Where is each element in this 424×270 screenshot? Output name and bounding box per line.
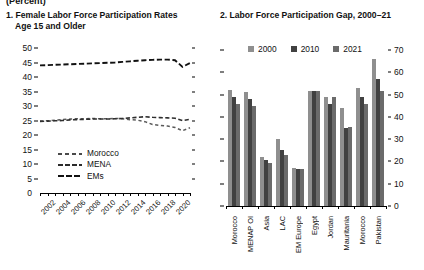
bar-chart-tick-mark bbox=[388, 183, 392, 184]
line-chart-tick-mark bbox=[34, 178, 38, 179]
panel-1-title: 1. Female Labor Force Participation Rate… bbox=[6, 10, 206, 32]
bar-chart-tick-mark-left bbox=[220, 94, 224, 95]
legend-item-morocco: Morocco bbox=[58, 148, 119, 159]
bar-2021 bbox=[348, 127, 352, 206]
legend-item-mena: MENA bbox=[58, 159, 119, 170]
line-chart-tick-mark bbox=[34, 77, 38, 78]
bar-chart-x-tick-mark bbox=[258, 206, 259, 209]
bar-2021 bbox=[300, 169, 304, 206]
bar-chart-tick-mark-left bbox=[220, 50, 224, 51]
line-chart-tick-mark bbox=[192, 149, 196, 150]
line-chart-tick-mark bbox=[34, 120, 38, 121]
line-chart-x-tick-label: 2010 bbox=[99, 198, 117, 216]
bar-chart-x-tick-mark bbox=[274, 206, 275, 209]
bar-group bbox=[370, 50, 386, 206]
bar-chart-x-tick-label: Pakistan bbox=[374, 216, 383, 244]
line-chart-x-tick-mark bbox=[48, 193, 49, 196]
bar-chart-x-tick-label: Morocco bbox=[358, 216, 367, 244]
bar-chart-x-tick-mark bbox=[370, 206, 371, 209]
line-chart-tick-mark bbox=[34, 106, 38, 107]
bar-chart-x-tick-mark bbox=[242, 206, 243, 209]
line-chart-legend: Morocco MENA EMs bbox=[58, 148, 119, 182]
bar-chart-tick-mark-left bbox=[220, 139, 224, 140]
bar-group bbox=[226, 50, 242, 206]
bar-group bbox=[258, 50, 274, 206]
line-chart-tick-mark bbox=[192, 120, 196, 121]
bar-chart-x-tick-label: Egypt bbox=[310, 216, 319, 235]
line-chart-tick-mark bbox=[34, 149, 38, 150]
bar-chart-x-tick-label: Asia bbox=[262, 216, 271, 230]
line-chart-x-tick-label: 2020 bbox=[174, 198, 192, 216]
bar-chart-tick-mark-left bbox=[220, 206, 224, 207]
bar-chart-tick-mark bbox=[388, 139, 392, 140]
bar-chart-x-tick-label: MENAP OI bbox=[246, 216, 255, 252]
bar-chart-x-tick-mark bbox=[290, 206, 291, 209]
panel-female-lfp: 1. Female Labor Force Participation Rate… bbox=[0, 0, 212, 270]
line-chart-tick-mark bbox=[192, 178, 196, 179]
bar-group bbox=[274, 50, 290, 206]
bar-group bbox=[338, 50, 354, 206]
bar-group bbox=[290, 50, 306, 206]
bar-chart-x-tick-mark bbox=[386, 206, 387, 209]
bar-2021 bbox=[236, 104, 240, 207]
bar-2021 bbox=[284, 155, 288, 206]
legend-label-ems: EMs bbox=[87, 171, 104, 182]
line-chart-tick-mark bbox=[192, 48, 196, 49]
panel-lfp-gap: 2. Labor Force Participation Gap, 2000–2… bbox=[212, 0, 424, 270]
panel-1-title-line2: Age 15 and Older bbox=[6, 21, 206, 32]
line-chart-tick-mark bbox=[34, 48, 38, 49]
line-chart-x-tick-mark bbox=[115, 193, 116, 196]
line-chart-x-tick-mark bbox=[100, 193, 101, 196]
line-chart-tick-mark bbox=[34, 62, 38, 63]
bar-group bbox=[322, 50, 338, 206]
line-chart-tick-mark bbox=[192, 106, 196, 107]
line-chart-tick-mark bbox=[192, 91, 196, 92]
bar-chart-x-tick-mark bbox=[306, 206, 307, 209]
bar-chart-x-tick-label: Mauritania bbox=[342, 216, 351, 251]
bar-chart-tick-mark bbox=[388, 161, 392, 162]
bar-chart-plot-area: 010203040506070 MoroccoMENAP OIAsiaLACEM… bbox=[226, 50, 386, 206]
line-series-mena bbox=[40, 117, 190, 122]
line-chart-x-tick-label: 2016 bbox=[144, 198, 162, 216]
line-chart-x-tick-mark bbox=[168, 193, 169, 196]
legend-label-morocco: Morocco bbox=[87, 148, 119, 159]
bar-chart-tick-mark-left bbox=[220, 183, 224, 184]
bar-chart-tick-mark bbox=[388, 116, 392, 117]
line-chart-x-tick-mark bbox=[40, 193, 41, 196]
bar-chart-x-tick-label: Jordan bbox=[326, 216, 335, 239]
bar-chart-x-tick-label: LAC bbox=[278, 216, 287, 230]
legend-item-ems: EMs bbox=[58, 171, 119, 182]
bar-chart-tick-mark bbox=[388, 94, 392, 95]
line-chart-x-tick-mark bbox=[130, 193, 131, 196]
line-chart-x-tick-label: 2002 bbox=[39, 198, 57, 216]
line-chart-tick-mark bbox=[34, 164, 38, 165]
bar-chart-tick-mark bbox=[388, 206, 392, 207]
line-series-ems bbox=[40, 60, 190, 67]
bar-chart-tick-mark-left bbox=[220, 72, 224, 73]
line-chart-tick-mark bbox=[192, 135, 196, 136]
bar-chart-tick-mark bbox=[388, 72, 392, 73]
bar-2021 bbox=[268, 163, 272, 206]
figure-root: (Percent) 1. Female Labor Force Particip… bbox=[0, 0, 424, 270]
line-chart-x-tick-mark bbox=[183, 193, 184, 196]
bar-2021 bbox=[364, 104, 368, 207]
line-chart-tick-mark bbox=[192, 164, 196, 165]
line-chart-x-tick-mark bbox=[145, 193, 146, 196]
line-chart-x-tick-mark bbox=[160, 193, 161, 196]
bar-2021 bbox=[316, 91, 320, 206]
line-chart-x-tick-mark bbox=[55, 193, 56, 196]
line-chart-x-tick-mark bbox=[153, 193, 154, 196]
bar-chart-x-tick-label: EM Europe bbox=[294, 216, 303, 253]
bar-group bbox=[354, 50, 370, 206]
line-chart-x-tick-mark bbox=[85, 193, 86, 196]
bar-chart-x-tick-mark bbox=[354, 206, 355, 209]
bar-group bbox=[242, 50, 258, 206]
bar-chart-x-tick-mark bbox=[338, 206, 339, 209]
bar-chart-x-tick-mark bbox=[226, 206, 227, 209]
line-chart-x-tick-mark bbox=[123, 193, 124, 196]
line-chart-x-tick-label: 2012 bbox=[114, 198, 132, 216]
bar-2021 bbox=[332, 97, 336, 206]
line-chart-x-tick-mark bbox=[190, 193, 191, 196]
line-chart-x-tick-label: 2018 bbox=[159, 198, 177, 216]
line-chart-tick-mark bbox=[34, 135, 38, 136]
